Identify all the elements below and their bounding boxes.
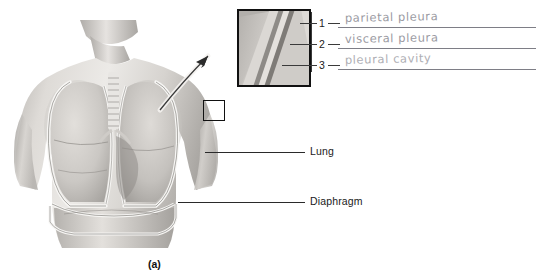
torso-anatomy-illustration	[8, 18, 240, 252]
inset-edge-connector	[311, 12, 312, 72]
magnified-region-marker	[203, 100, 225, 121]
answer-rule-line-3	[338, 69, 536, 70]
answer-lead-1	[328, 23, 340, 24]
answer-lead-3	[328, 65, 340, 66]
inset-leader-line-1	[300, 23, 317, 24]
diaphragm-leader-line	[178, 202, 305, 203]
figure-caption: (a)	[148, 258, 161, 270]
inset-number-1: 1	[319, 18, 325, 29]
inset-number-2: 2	[319, 39, 325, 50]
inset-number-3: 3	[319, 60, 325, 71]
diaphragm-label: Diaphragm	[310, 196, 363, 207]
answer-lead-2	[328, 44, 340, 45]
answer-handwriting-1[interactable]: parietal pleura	[345, 9, 439, 25]
lung-label: Lung	[310, 146, 334, 157]
inset-leader-line-2	[290, 44, 317, 45]
answer-handwriting-2[interactable]: visceral pleura	[345, 30, 439, 46]
answer-handwriting-3[interactable]: pleural cavity	[345, 51, 432, 67]
answer-rule-line-2	[338, 48, 536, 49]
pleura-inset-box	[237, 9, 311, 87]
answer-rule-line-1	[338, 27, 536, 28]
lung-leader-line	[205, 152, 305, 153]
figure-canvas: 1 2 3 parietal pleura visceral pleura pl…	[0, 0, 538, 277]
